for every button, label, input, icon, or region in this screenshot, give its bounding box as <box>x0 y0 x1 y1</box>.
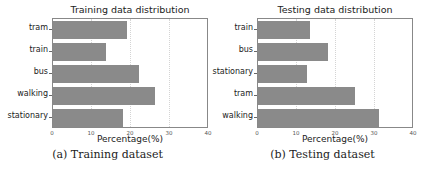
gridline <box>169 19 170 127</box>
bar-tram <box>258 87 355 104</box>
bar-train <box>258 21 310 38</box>
bar-bus <box>258 43 328 60</box>
y-tick-label: tram <box>234 89 253 98</box>
y-tick-label: stationary <box>213 67 253 76</box>
testing-chart-panel: Testing data distribution trainbusstatio… <box>215 0 430 179</box>
y-tick-label: bus <box>239 45 253 54</box>
y-tick-label: walking <box>17 89 48 98</box>
y-tick-mark <box>254 117 257 118</box>
y-tick-mark <box>254 29 257 30</box>
y-tick-label: stationary <box>8 111 48 120</box>
chart-title: Training data distribution <box>52 4 208 15</box>
y-tick-mark <box>254 73 257 74</box>
bar-stationary <box>258 65 307 82</box>
training-chart-panel: Training data distribution tramtrainbusw… <box>0 0 215 179</box>
y-tick-mark <box>254 95 257 96</box>
figure-caption: (b) Testing dataset <box>215 148 430 161</box>
plot-area <box>257 18 413 128</box>
y-tick-mark <box>254 51 257 52</box>
chart-title: Testing data distribution <box>257 4 413 15</box>
y-tick-mark <box>49 29 52 30</box>
y-tick-label: train <box>29 45 48 54</box>
x-axis-label: Percentage(%) <box>257 134 413 144</box>
bar-tram <box>53 21 127 38</box>
y-tick-mark <box>49 95 52 96</box>
y-tick-mark <box>49 73 52 74</box>
y-tick-label: tram <box>29 23 48 32</box>
bar-walking <box>53 87 155 104</box>
x-axis-label: Percentage(%) <box>52 134 208 144</box>
figure-caption: (a) Training dataset <box>0 148 215 161</box>
y-tick-label: train <box>234 23 253 32</box>
bar-stationary <box>53 109 123 126</box>
plot-area <box>52 18 208 128</box>
y-tick-mark <box>49 117 52 118</box>
y-tick-label: walking <box>222 111 253 120</box>
y-tick-label: bus <box>34 67 48 76</box>
bar-train <box>53 43 106 60</box>
y-tick-mark <box>49 51 52 52</box>
bar-bus <box>53 65 139 82</box>
bar-walking <box>258 109 379 126</box>
